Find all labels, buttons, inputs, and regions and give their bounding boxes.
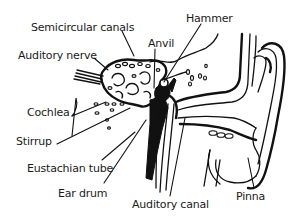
label-cochlea: Cochlea xyxy=(27,106,70,119)
label-auditory-canal: Auditory canal xyxy=(132,198,209,211)
label-auditory-nerve: Auditory nerve xyxy=(18,49,97,62)
label-pinna: Pinna xyxy=(236,190,265,203)
label-eustachian-tube: Eustachian tube xyxy=(27,162,113,175)
label-ear-drum: Ear drum xyxy=(58,187,107,200)
label-hammer: Hammer xyxy=(186,12,233,25)
ear-anatomy-diagram: Semicircular canals Auditory nerve Anvil… xyxy=(0,0,289,224)
label-semicircular-canals: Semicircular canals xyxy=(31,21,135,34)
outer-ear-illustration xyxy=(150,34,285,188)
label-anvil: Anvil xyxy=(148,37,174,50)
label-stirrup: Stirrup xyxy=(16,135,52,148)
